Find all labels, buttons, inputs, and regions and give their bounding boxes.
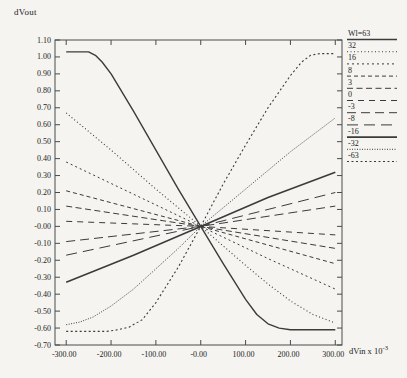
- series-curve-Wl=63: [66, 52, 335, 330]
- y-tick-label: -0.10: [34, 239, 51, 248]
- legend-label--63: -63: [348, 151, 359, 160]
- series-curve--63: [66, 54, 335, 332]
- legend-label-16: 16: [348, 53, 356, 62]
- legend-label--32: -32: [348, 139, 359, 148]
- y-tick-label: -0.70: [34, 341, 51, 350]
- y-tick-label: -0.40: [34, 290, 51, 299]
- y-tick-label: -0.30: [34, 273, 51, 282]
- x-tick-label: 200.00: [277, 350, 299, 359]
- y-tick-label: 0.50: [37, 137, 51, 146]
- legend-label--16: -16: [348, 127, 359, 136]
- y-tick-label: 0.10: [37, 205, 51, 214]
- legend-label-32: 32: [348, 41, 356, 50]
- x-axis-title-exponent: -3: [383, 344, 388, 351]
- y-axis-title: dVout: [14, 7, 37, 17]
- series-curve--3: [66, 206, 335, 242]
- legend-label-Wl=63: Wl=63: [348, 29, 370, 38]
- y-tick-label: 1.10: [37, 36, 51, 45]
- series-curve--8: [66, 193, 335, 256]
- y-tick-label: -0.60: [34, 324, 51, 333]
- x-tick-label: 300.00: [322, 350, 344, 359]
- legend-label--3: -3: [348, 102, 355, 111]
- x-tick-label: -300.00: [52, 350, 77, 359]
- x-tick-label: -200.00: [97, 350, 122, 359]
- legend-label-0: 0: [348, 90, 352, 99]
- x-tick-label: 100.00: [233, 350, 255, 359]
- transfer-curves-chart: -300.00-200.00-100.00-0.00100.00200.0030…: [0, 0, 407, 378]
- y-tick-label: 0.90: [37, 69, 51, 78]
- y-tick-label: 0.60: [37, 120, 51, 129]
- x-axis-title-base: dVin x 10: [349, 346, 383, 356]
- x-axis-title: dVin x 10-3: [349, 344, 388, 356]
- series-curve-0: [66, 221, 335, 235]
- y-tick-label: 1.00: [37, 52, 51, 61]
- x-tick-label: -100.00: [142, 350, 167, 359]
- series-curve-32: [66, 113, 335, 323]
- y-tick-label: 0.30: [37, 171, 51, 180]
- y-tick-label: -0.00: [34, 222, 51, 231]
- x-tick-label: -0.00: [190, 350, 207, 359]
- figure-canvas: dVout -300.00-200.00-100.00-0.00100.0020…: [0, 0, 407, 378]
- y-tick-label: 0.40: [37, 154, 51, 163]
- legend-label--8: -8: [348, 114, 355, 123]
- plot-frame: [55, 40, 342, 345]
- series-curve--32: [66, 118, 335, 325]
- y-tick-label: 0.20: [37, 188, 51, 197]
- legend-label-8: 8: [348, 66, 352, 75]
- y-tick-label: 0.80: [37, 86, 51, 95]
- legend-label-3: 3: [348, 78, 352, 87]
- y-tick-label: 0.70: [37, 103, 51, 112]
- y-tick-label: -0.20: [34, 256, 51, 265]
- y-tick-label: -0.50: [34, 307, 51, 316]
